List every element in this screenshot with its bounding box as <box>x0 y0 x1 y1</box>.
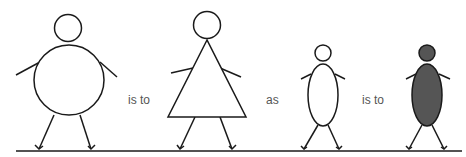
triangle-body <box>168 40 246 117</box>
connector-3: is to <box>362 93 384 107</box>
right-arm <box>335 74 345 79</box>
analogy-diagram: is to as is to <box>0 0 466 157</box>
oval-body <box>412 64 442 126</box>
round-body-figure <box>16 15 117 150</box>
left-arm <box>301 74 311 79</box>
head-icon <box>55 15 82 42</box>
triangle-body-figure <box>168 12 246 150</box>
right-arm <box>439 74 450 79</box>
left-leg <box>39 115 54 149</box>
head-icon <box>194 12 221 39</box>
small-oval-figure <box>301 45 345 149</box>
connector-1: is to <box>128 93 150 107</box>
right-leg <box>328 125 339 149</box>
right-leg <box>432 125 444 149</box>
oval-body <box>308 64 338 126</box>
right-leg <box>80 115 91 149</box>
left-leg <box>180 117 195 149</box>
head-icon <box>419 45 435 61</box>
right-foot <box>88 145 95 149</box>
connector-2: as <box>266 93 279 107</box>
round-body <box>34 45 104 115</box>
left-leg <box>304 125 318 149</box>
left-foot <box>35 145 43 149</box>
right-leg <box>220 117 232 149</box>
head-icon <box>315 45 331 61</box>
left-leg <box>409 125 422 149</box>
left-arm <box>171 68 193 73</box>
filled-oval-figure <box>406 45 450 149</box>
